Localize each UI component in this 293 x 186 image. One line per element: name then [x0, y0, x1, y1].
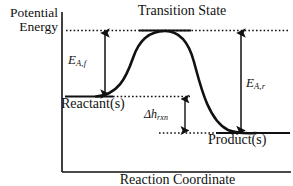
activation-energy-forward-label: EA,f: [68, 53, 86, 68]
ear-symbol: E: [246, 75, 254, 90]
product-label: Product(s): [208, 133, 266, 147]
dh-subscript: rxn: [157, 113, 168, 122]
x-axis-label: Reaction Coordinate: [62, 173, 293, 186]
eaf-symbol: E: [68, 52, 76, 67]
reaction-path-curve: [96, 31, 256, 133]
dh-symbol: Δh: [144, 107, 157, 121]
y-axis-label: Potential Energy: [0, 6, 58, 34]
energy-diagram-figure: Potential Energy Reaction Coordinate Tra…: [0, 0, 293, 186]
axis-lines: [62, 12, 291, 172]
transition-state-label: Transition State: [107, 4, 257, 18]
enthalpy-of-reaction-label: Δhrxn: [144, 108, 168, 122]
eaf-subscript: A,f: [76, 58, 86, 68]
activation-energy-reverse-label: EA,r: [246, 76, 265, 91]
reactant-label: Reactant(s): [61, 97, 125, 111]
y-axis-label-line1: Potential: [0, 6, 58, 20]
y-axis-label-line2: Energy: [0, 20, 58, 34]
ear-subscript: A,r: [254, 81, 265, 91]
